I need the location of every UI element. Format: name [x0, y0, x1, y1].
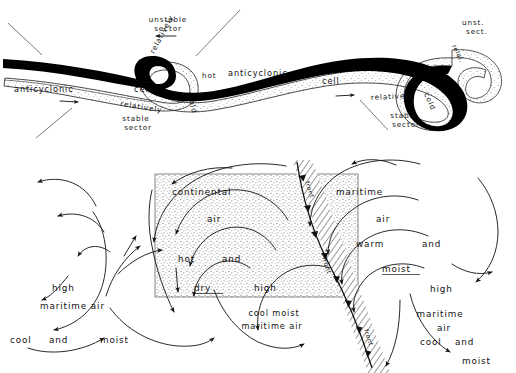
maritime-far-right-line2: air [437, 323, 451, 333]
continental-hot-label: hot [178, 254, 195, 264]
maritime-right-label: maritime [336, 187, 383, 197]
anticyclonic-label-right: anticyclonic [228, 68, 288, 78]
maritime-left-line1: maritime air [40, 301, 105, 311]
maritime-right-moist-label: moist [382, 264, 411, 274]
maritime-far-right-cool: cool [420, 337, 442, 347]
maritime-far-right-moist: moist [462, 356, 491, 366]
unst-sect-label-line1: unst. [462, 18, 484, 27]
high-center-left-label: high [254, 283, 277, 293]
anticyclonic-label-left: anticyclonic [14, 84, 74, 94]
maritime-right-and-label: and [422, 239, 441, 249]
stable-sector-left-line1: stable [122, 114, 149, 123]
maritime-far-right-and: and [455, 337, 474, 347]
streamlines-left-high [24, 179, 110, 352]
continental-and-label: and [222, 254, 241, 264]
cool-moist-center-line2: maritime air [241, 321, 302, 331]
lower-panel: front front front [10, 158, 504, 373]
continental-dry-label: dry [194, 283, 211, 293]
continental-air-label: air [207, 214, 221, 224]
maritime-right-warm-label: warm [356, 239, 384, 249]
high-center-right-label: high [430, 284, 453, 294]
maritime-left-moist: moist [100, 335, 129, 345]
stable-sector-right-line1: stable [390, 111, 417, 120]
meteorology-figure: unstable sector anticyclonic cell anticy… [0, 0, 516, 373]
unst-sect-label-line2: sect. [466, 27, 488, 36]
continental-label: continental [172, 187, 231, 197]
cell-label-right: cell [322, 76, 340, 86]
stable-sector-left-line2: sector [124, 123, 152, 132]
stable-sector-right-line2: sector [392, 120, 420, 129]
high-left-label: high [52, 283, 75, 293]
upper-panel: unstable sector anticyclonic cell anticy… [3, 7, 502, 138]
cool-moist-center-line1: cool moist [248, 308, 299, 318]
maritime-left-cool: cool [10, 335, 32, 345]
relatively-hot-label-b: hot [202, 71, 216, 80]
maritime-right-air-label: air [376, 214, 390, 224]
maritime-far-right-line1: maritime [416, 309, 463, 319]
maritime-left-and: and [49, 335, 68, 345]
cell-label-left: cell [134, 84, 152, 94]
